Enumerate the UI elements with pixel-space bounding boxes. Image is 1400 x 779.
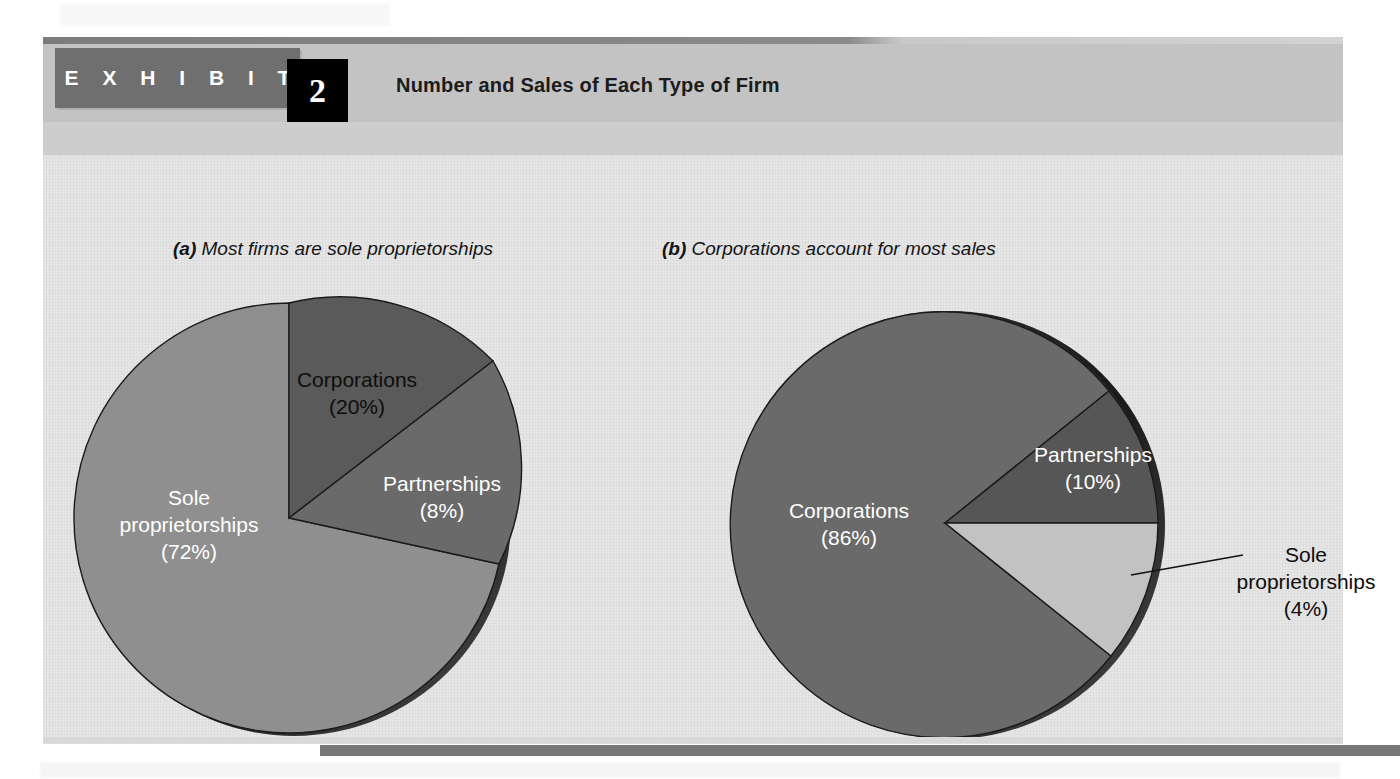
pie-a-label-corporations-name: Corporations xyxy=(297,368,417,391)
pie-b-label-sole-line2: proprietorships xyxy=(1237,570,1376,593)
pie-b-label-corporations-name: Corporations xyxy=(789,499,909,522)
bottom-rule xyxy=(320,745,1400,756)
pie-a-label-sole-line2: proprietorships xyxy=(120,513,259,536)
pie-a-label-partnerships-pct: (8%) xyxy=(420,499,464,522)
pie-b-label-sole-line1: Sole xyxy=(1285,543,1327,566)
scan-artifact-bottom xyxy=(40,762,1340,778)
pie-b-label-partnerships-pct: (10%) xyxy=(1065,470,1121,493)
exhibit-number-box: 2 xyxy=(287,59,348,122)
pie-b-label-corporations-pct: (86%) xyxy=(821,526,877,549)
bottom-rule-light xyxy=(43,737,1343,743)
scan-artifact-top xyxy=(60,4,390,26)
exhibit-title: Number and Sales of Each Type of Firm xyxy=(396,74,780,97)
exhibit-figure: E X H I B I T 2 Number and Sales of Each… xyxy=(43,44,1343,744)
charts-container: (a) Most firms are sole proprietorships … xyxy=(43,155,1343,744)
pie-a-label-sole-pct: (72%) xyxy=(161,540,217,563)
exhibit-tab-label: E X H I B I T xyxy=(55,48,300,108)
page-background: E X H I B I T 2 Number and Sales of Each… xyxy=(0,0,1400,779)
pie-chart-b: Corporations (86%) Partnerships (10%) So… xyxy=(730,311,1375,739)
pie-chart-a: Corporations (20%) Partnerships (8%) Sol… xyxy=(74,297,522,736)
pie-a-label-partnerships-name: Partnerships xyxy=(383,472,501,495)
exhibit-number: 2 xyxy=(309,74,326,108)
exhibit-tab: E X H I B I T xyxy=(55,48,300,108)
pie-b-label-partnerships-name: Partnerships xyxy=(1034,443,1152,466)
top-rule xyxy=(43,37,1343,44)
pie-b-label-sole-pct: (4%) xyxy=(1284,597,1328,620)
pie-a-label-sole-line1: Sole xyxy=(168,486,210,509)
pie-charts-svg: Corporations (20%) Partnerships (8%) Sol… xyxy=(43,155,1343,744)
pie-a-label-corporations-pct: (20%) xyxy=(329,395,385,418)
exhibit-header-band-secondary xyxy=(43,122,1343,155)
